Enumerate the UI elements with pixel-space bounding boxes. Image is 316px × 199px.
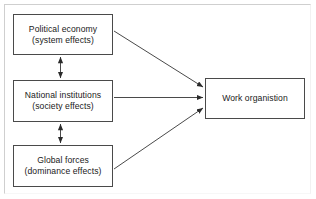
diagram-canvas: Political economy (system effects) Natio… [0,0,316,199]
node-global-forces-line1: Global forces [37,155,89,166]
node-political-economy-line2: (system effects) [32,35,94,46]
connector-global-to-work [114,108,203,169]
node-national-institutions-line2: (society effects) [32,101,93,112]
node-national-institutions: National institutions (society effects) [13,80,113,122]
node-political-economy: Political economy (system effects) [13,14,113,55]
node-global-forces-line2: (dominance effects) [25,166,102,177]
connector-political-to-work [114,31,203,87]
node-political-economy-line1: Political economy [29,24,97,35]
node-national-institutions-line1: National institutions [25,90,101,101]
node-work-organistion-line1: Work organistion [222,93,288,104]
node-global-forces: Global forces (dominance effects) [13,145,113,187]
node-work-organistion: Work organistion [205,78,305,119]
